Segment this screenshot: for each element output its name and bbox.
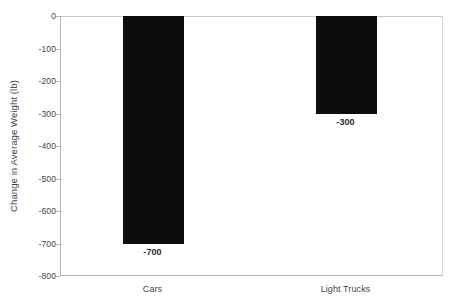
y-tick-label-wrap: -400: [0, 141, 56, 151]
y-tick-label-wrap: -600: [0, 206, 56, 216]
y-tick-label-wrap: -800: [0, 271, 56, 281]
x-category-label: Cars: [82, 283, 223, 295]
y-tick-label: -700: [20, 239, 56, 249]
bar-light-trucks: [316, 16, 377, 114]
y-tick-label-wrap: -500: [0, 174, 56, 184]
y-tick-label-wrap: -700: [0, 239, 56, 249]
y-tick-label: -800: [20, 271, 56, 281]
y-tick-label-wrap: -200: [0, 76, 56, 86]
bar-value-label: -700: [112, 247, 193, 258]
y-tick-label: -400: [20, 141, 56, 151]
y-tick-label: -600: [20, 206, 56, 216]
x-category-label: Light Trucks: [275, 283, 416, 295]
bar-cars: [123, 16, 184, 244]
y-tick-label-wrap: -100: [0, 44, 56, 54]
bar-chart: Change in Average Weight (lb) 0-100-200-…: [0, 0, 461, 303]
y-tick-label-wrap: 0: [0, 11, 56, 21]
y-tick-mark: [56, 276, 60, 277]
plot-area: [60, 16, 443, 276]
y-tick-label-wrap: -300: [0, 109, 56, 119]
y-tick-label: -500: [20, 174, 56, 184]
y-tick-label: -300: [20, 109, 56, 119]
bar-value-label: -300: [305, 117, 386, 128]
y-tick-label: 0: [20, 11, 56, 21]
y-tick-label: -100: [20, 44, 56, 54]
y-tick-label: -200: [20, 76, 56, 86]
